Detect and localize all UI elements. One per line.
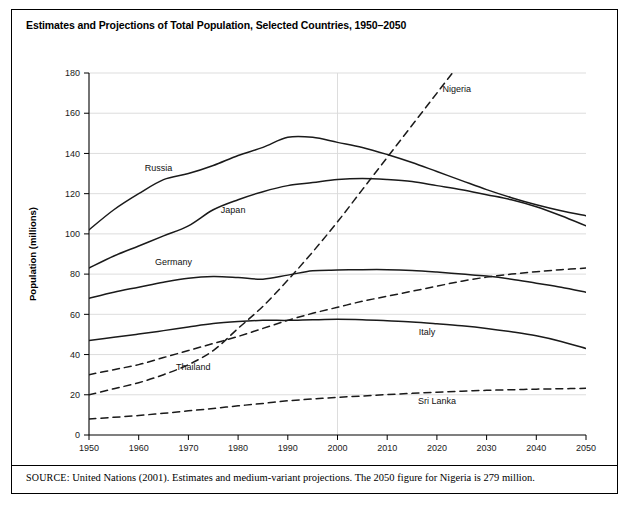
y-tick-label: 0: [75, 430, 80, 440]
series-labels-group: RussiaJapanGermanyItalyNigeriaThailandSr…: [145, 84, 471, 406]
series-label-italy: Italy: [419, 327, 436, 337]
x-tick-label: 2010: [377, 443, 397, 453]
gridlines-group: [89, 73, 586, 435]
y-axis-title: Population (millions): [27, 207, 38, 301]
source-text: United Nations (2001). Estimates and med…: [70, 472, 535, 483]
series-label-sri-lanka: Sri Lanka: [418, 396, 456, 406]
y-tick-label: 20: [70, 390, 80, 400]
y-tick-label: 120: [65, 189, 80, 199]
y-tick-label: 60: [70, 310, 80, 320]
source-note: SOURCE: United Nations (2001). Estimates…: [26, 471, 607, 485]
chart-plot-area: 020406080100120140160180 195019601970198…: [12, 37, 617, 457]
y-tick-label: 80: [70, 269, 80, 279]
y-tick-label: 160: [65, 108, 80, 118]
series-label-thailand: Thailand: [176, 362, 211, 372]
x-tick-label: 1980: [228, 443, 248, 453]
x-tick-label: 2020: [427, 443, 447, 453]
y-tick-label: 40: [70, 350, 80, 360]
population-line-chart: 020406080100120140160180 195019601970198…: [12, 37, 617, 457]
x-tick-label: 2030: [477, 443, 497, 453]
y-tick-label: 180: [65, 68, 80, 78]
x-tick-label: 2000: [327, 443, 347, 453]
x-axis-ticks-group: 1950196019701980199020002010202020302040…: [79, 435, 596, 453]
x-tick-label: 1960: [129, 443, 149, 453]
series-label-japan: Japan: [221, 205, 246, 215]
x-tick-label: 1950: [79, 443, 99, 453]
source-label: SOURCE:: [26, 472, 70, 483]
series-label-russia: Russia: [145, 163, 173, 173]
figure-panel: Estimates and Projections of Total Popul…: [11, 9, 618, 494]
y-tick-label: 100: [65, 229, 80, 239]
x-tick-label: 2040: [526, 443, 546, 453]
source-divider: [12, 465, 617, 466]
x-tick-label: 2050: [576, 443, 596, 453]
series-label-nigeria: Nigeria: [443, 84, 472, 94]
x-tick-label: 1970: [178, 443, 198, 453]
y-axis-ticks-group: 020406080100120140160180: [65, 68, 89, 440]
y-tick-label: 140: [65, 149, 80, 159]
page-title: Estimates and Projections of Total Popul…: [26, 19, 406, 31]
x-tick-label: 1990: [278, 443, 298, 453]
series-label-germany: Germany: [155, 257, 193, 267]
